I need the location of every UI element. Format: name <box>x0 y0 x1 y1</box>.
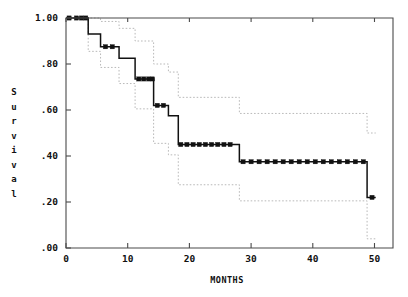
y-tick-label: .60 <box>41 104 58 115</box>
censor-mark <box>265 160 269 164</box>
censor-mark <box>179 142 183 146</box>
censor-mark <box>281 160 285 164</box>
y-tick-label: .40 <box>41 150 58 161</box>
x-tick-label: 50 <box>369 253 381 264</box>
y-axis-title: Survival <box>11 87 17 199</box>
censor-mark <box>329 160 333 164</box>
y-axis-title-letter: a <box>11 174 16 184</box>
axes-frame-layer <box>66 18 393 248</box>
censor-mark <box>210 142 214 146</box>
y-axis-title-letter: v <box>11 131 17 141</box>
y-tick-label: .00 <box>41 242 58 253</box>
censor-mark <box>222 142 226 146</box>
x-axis-title: MONTHS <box>210 275 244 285</box>
censor-mark <box>297 160 301 164</box>
y-axis-title-letter: S <box>11 87 16 97</box>
censor-mark <box>150 77 154 81</box>
censor-mark <box>257 160 261 164</box>
censor-mark <box>337 160 341 164</box>
plot-frame <box>66 18 393 248</box>
censor-mark <box>273 160 277 164</box>
x-tick-label: 20 <box>184 253 196 264</box>
censor-mark <box>361 160 365 164</box>
censor-mark <box>313 160 317 164</box>
x-tick-label: 30 <box>245 253 257 264</box>
x-axis-ticks: 01020304050 <box>63 18 380 264</box>
censor-mark <box>241 160 245 164</box>
y-tick-label: 1.00 <box>35 12 58 23</box>
x-tick-label: 0 <box>63 253 69 264</box>
y-axis-title-letter: v <box>11 160 17 170</box>
y-axis-title-letter: r <box>11 116 17 126</box>
censor-mark <box>321 160 325 164</box>
confidence-band-1 <box>66 18 376 133</box>
y-axis-title-letter: u <box>11 102 16 112</box>
survival-plot-figure: .00.20.40.60.801.00 01020304050 Survival… <box>0 0 408 297</box>
censor-mark <box>228 142 232 146</box>
censor-mark <box>137 77 141 81</box>
x-tick-label: 10 <box>122 253 134 264</box>
censor-mark <box>103 45 107 49</box>
censor-mark <box>249 160 253 164</box>
censor-mark <box>185 142 189 146</box>
censor-mark <box>370 195 374 199</box>
kaplan-meier-chart: .00.20.40.60.801.00 01020304050 Survival… <box>0 0 408 297</box>
censor-mark <box>161 103 165 107</box>
y-tick-label: .20 <box>41 196 58 207</box>
censor-mark <box>155 103 159 107</box>
y-axis-title-letter: i <box>11 145 17 155</box>
censor-marks-layer <box>67 16 374 200</box>
censor-mark <box>305 160 309 164</box>
censor-mark <box>353 160 357 164</box>
censor-mark <box>142 77 146 81</box>
confidence-band-2 <box>66 18 376 239</box>
censor-mark <box>110 45 114 49</box>
x-tick-label: 40 <box>307 253 319 264</box>
censor-mark <box>216 142 220 146</box>
y-tick-label: .80 <box>41 58 58 69</box>
y-axis-title-letter: l <box>11 189 16 199</box>
censor-mark <box>203 142 207 146</box>
confidence-band-layer <box>66 18 376 239</box>
censor-mark <box>289 160 293 164</box>
censor-mark <box>197 142 201 146</box>
censor-mark <box>191 142 195 146</box>
censor-mark <box>345 160 349 164</box>
